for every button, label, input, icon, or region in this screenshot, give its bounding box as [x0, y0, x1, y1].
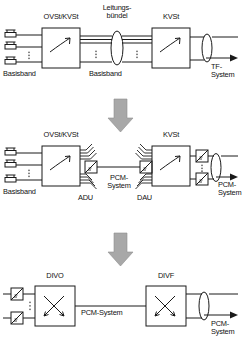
- label-pcm-link: PCM- System: [99, 174, 139, 190]
- exchange-box-right-pcm: [152, 146, 190, 186]
- label-exchange-left-analog: OVSt/KVSt: [33, 13, 89, 21]
- dau-diagonal: [140, 161, 152, 173]
- telephone-icon-6: [5, 175, 16, 182]
- exchange-box-divo: [35, 286, 75, 326]
- digital-input-converter-bottom-diagonal: [11, 312, 23, 324]
- dau-fan-upper: [136, 144, 153, 159]
- label-baseband-mid-analog: Basisband: [89, 70, 122, 78]
- label-exchange-right-analog: KVSt: [149, 13, 193, 21]
- adu-fan-upper: [80, 144, 97, 159]
- label-exchange-left-pcm: OVSt/KVSt: [33, 131, 89, 139]
- adu-diagonal: [85, 161, 97, 173]
- selector-switch-symbol-left-pcm: [50, 156, 70, 170]
- down-arrow-shape-2: [108, 233, 133, 266]
- selector-switch-symbol-left: [50, 38, 70, 52]
- selector-switch-symbol-right-pcm: [160, 156, 180, 170]
- adu-fan-lower: [80, 174, 97, 189]
- label-converter-adu: ADU: [78, 194, 93, 202]
- selector-switch-symbol-right: [160, 38, 180, 52]
- stage-pcm-transition: OVSt/KVSt KVSt Basisband ADU PCM- System…: [0, 134, 242, 234]
- label-baseband-left-analog: Basisband: [3, 70, 36, 78]
- exchange-box-right: [152, 28, 190, 68]
- exchange-box-divf: [146, 286, 186, 326]
- label-exchange-divo: DIVO: [32, 272, 78, 280]
- flow-arrow-1-graphics: [0, 99, 242, 135]
- flow-arrow-2: [0, 233, 242, 269]
- label-baseband-left-pcm: Basisband: [3, 188, 36, 196]
- stage-analog: OVSt/KVSt Leitungs- bündel KVSt Basisban…: [0, 0, 242, 100]
- telephone-icon-3: [5, 57, 16, 64]
- down-arrow-shape: [108, 99, 133, 132]
- label-output-tf-system: TF- System: [211, 63, 234, 79]
- output-converter-top-diagonal: [196, 150, 208, 162]
- label-exchange-right-pcm: KVSt: [149, 131, 193, 139]
- label-digital-output: PCM- System: [211, 320, 234, 336]
- exchange-box-left-pcm: [42, 146, 80, 186]
- cable-bundle-ellipse: [111, 31, 123, 65]
- label-converter-dau: DAU: [137, 194, 152, 202]
- telephone-icon-1: [5, 30, 16, 37]
- telephone-icon-2: [5, 42, 16, 49]
- digital-input-converter-top-diagonal: [11, 288, 23, 300]
- digital-switch-symbol-divo: [44, 296, 64, 316]
- tf-system-arrow-head: [230, 55, 238, 62]
- label-output-pcm-system: PCM- System: [218, 181, 241, 197]
- digital-output-arrow-head: [230, 312, 238, 319]
- telephone-icon-4: [5, 148, 16, 155]
- digital-switch-symbol-divf: [155, 296, 175, 316]
- stage-digital: DIVO DIVF PCM-System PCM- System: [0, 268, 242, 346]
- flow-arrow-2-graphics: [0, 233, 242, 269]
- label-digital-pcm-link: PCM-System: [81, 309, 123, 317]
- telephone-icon-5: [5, 160, 16, 167]
- label-exchange-divf: DIVF: [143, 272, 189, 280]
- exchange-box-left: [42, 28, 80, 68]
- label-trunk-group: Leitungs- bündel: [93, 4, 141, 20]
- output-converter-bottom-diagonal: [196, 173, 208, 185]
- flow-arrow-1: [0, 99, 242, 135]
- digital-output-cable-ellipse: [199, 292, 209, 320]
